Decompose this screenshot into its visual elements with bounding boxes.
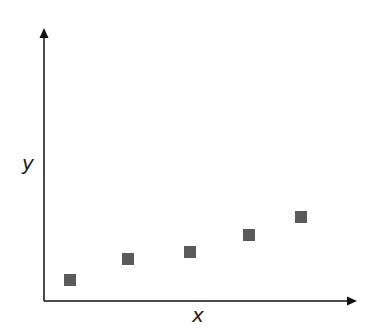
data-point-square — [295, 211, 307, 223]
data-points — [64, 211, 307, 286]
data-point-square — [243, 229, 255, 241]
data-point-square — [64, 274, 76, 286]
scatter-plot — [0, 0, 371, 336]
data-point-square — [122, 253, 134, 265]
data-point-square — [184, 246, 196, 258]
y-axis — [40, 28, 49, 301]
y-axis-label: y — [22, 153, 34, 173]
x-axis-label: x — [192, 305, 204, 325]
